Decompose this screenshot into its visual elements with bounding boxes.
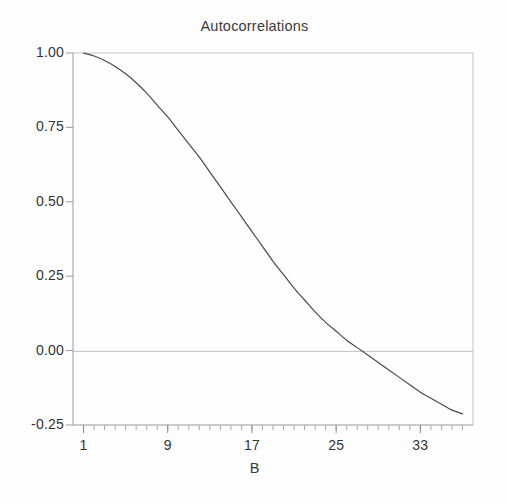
y-axis-ticks [66,53,73,425]
x-tick-label: 33 [400,437,440,453]
x-axis-minor-ticks [84,425,463,430]
x-tick-label: 1 [64,437,104,453]
x-axis-title: B [0,460,509,476]
x-axis-major-ticks [84,425,421,433]
x-tick-label: 9 [148,437,188,453]
y-tick-label: -0.25 [10,416,64,432]
autocorrelation-chart-figure: Autocorrelations -0.250.000.250.500.751.… [0,0,509,503]
y-tick-label: 0.50 [10,193,64,209]
autocorrelation-series-line [84,53,463,414]
y-tick-label: 0.75 [10,118,64,134]
x-tick-label: 25 [316,437,356,453]
y-tick-label: 0.00 [10,342,64,358]
x-tick-label: 17 [232,437,272,453]
y-tick-label: 0.25 [10,267,64,283]
plot-area [0,0,509,503]
axis-frame [73,53,473,425]
y-tick-label: 1.00 [10,44,64,60]
